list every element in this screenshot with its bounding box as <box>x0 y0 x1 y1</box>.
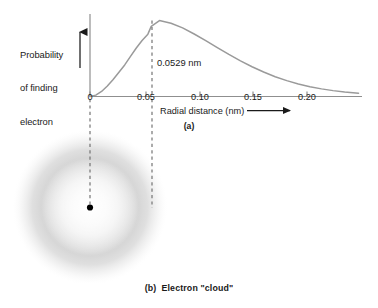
panel-b-caption: (b) Electron "cloud" <box>0 283 378 293</box>
x-tick-label-005: 0.05 <box>129 92 163 103</box>
peak-annotation-label: 0.0529 nm <box>157 57 201 68</box>
x-tick-label-0: 0 <box>73 92 107 103</box>
nucleus-dot-icon <box>87 204 93 210</box>
x-axis-label: Radial distance (nm) <box>160 106 244 117</box>
panel-a-caption: (a) <box>0 121 378 131</box>
y-axis-label-line1: Probability <box>20 49 84 60</box>
x-tick-label-015: 0.15 <box>236 92 270 103</box>
x-tick-label-020: 0.20 <box>290 92 324 103</box>
x-tick-label-010: 0.10 <box>183 92 217 103</box>
figure-root: Probability of finding electron 0.0529 n… <box>0 0 378 308</box>
